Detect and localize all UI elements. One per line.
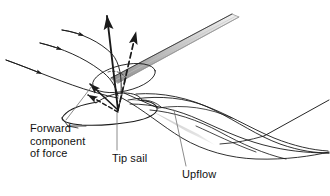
leader-upflow xyxy=(174,110,186,166)
label-forward-component-of-force: Forward component of force xyxy=(30,122,85,160)
oncoming-streamlines xyxy=(6,30,121,98)
wing-surface-shading xyxy=(150,110,215,145)
label-tip-sail: Tip sail xyxy=(112,152,147,165)
tip-sail-shape xyxy=(111,14,239,83)
wing-tip-sail-diagram xyxy=(0,0,330,196)
label-upflow: Upflow xyxy=(182,168,216,181)
figure-canvas: Forward component of force Tip sail Upfl… xyxy=(0,0,330,196)
